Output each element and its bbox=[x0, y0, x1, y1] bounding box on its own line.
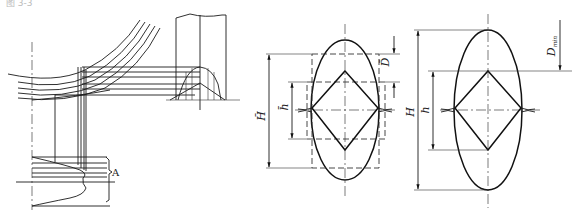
label-D-min: Dmin bbox=[545, 36, 558, 57]
middle-inner-dashed-rect bbox=[307, 82, 385, 139]
caption-fragment: 图 3-3 bbox=[6, 0, 33, 8]
label-h-bar: h̄ bbox=[278, 103, 291, 110]
right-panel-actual-dimensions: H h Dmin bbox=[404, 14, 572, 208]
diagram-canvas: 图 3-3 bbox=[0, 0, 580, 219]
diagram-svg: 图 3-3 bbox=[0, 0, 580, 219]
label-H: H bbox=[404, 107, 417, 118]
brace-A bbox=[106, 157, 112, 202]
label-D-bar: D̄ bbox=[379, 57, 392, 67]
curve-2 bbox=[18, 22, 145, 85]
left-panel-forming-diagram: A bbox=[8, 14, 240, 210]
label-h: h bbox=[419, 106, 432, 113]
label-A: A bbox=[111, 167, 120, 178]
middle-panel-average-dimensions: H̄ h̄ D̄ bbox=[255, 24, 400, 198]
label-H-bar: H̄ bbox=[255, 111, 268, 122]
